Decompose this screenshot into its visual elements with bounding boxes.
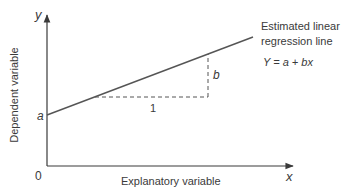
y-axis-symbol: y [35, 8, 42, 21]
regression-equation: Y = a + bx [263, 57, 313, 68]
line-label-line1: Estimated linear [261, 21, 340, 32]
origin-label: 0 [35, 170, 42, 182]
y-axis-label: Dependent variable [8, 47, 20, 142]
x-axis-symbol: x [286, 170, 293, 183]
x-axis-label: Explanatory variable [121, 176, 221, 187]
slope-label: b [213, 69, 220, 81]
line-label-line2: regression line [261, 36, 333, 47]
run-label: 1 [150, 103, 156, 114]
intercept-label: a [37, 110, 44, 122]
regression-diagram: y x 0 Explanatory variable Dependent var… [0, 0, 342, 194]
